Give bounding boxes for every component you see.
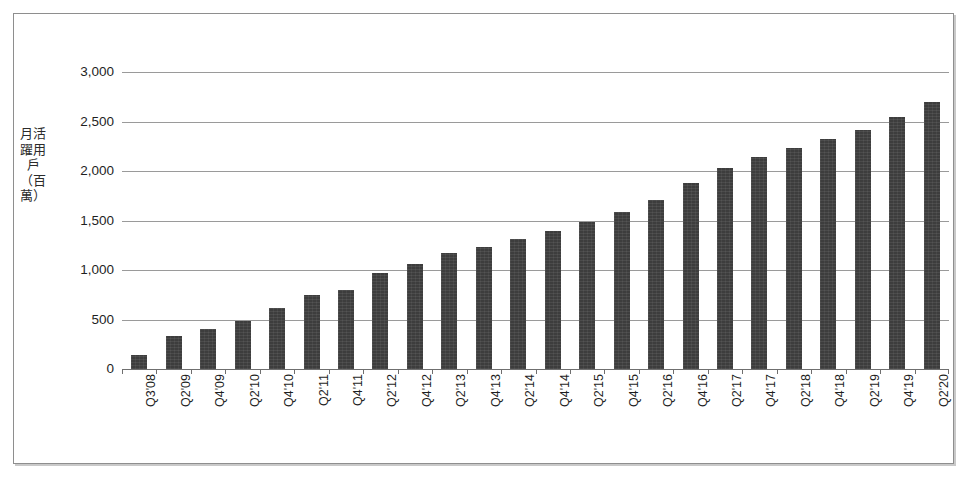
x-axis-tick-label: Q2'14 xyxy=(523,374,537,444)
y-axis-tick-label: 1,000 xyxy=(44,262,114,277)
x-axis-tick-label: Q2'17 xyxy=(730,374,744,444)
x-axis-tick-label: Q4'09 xyxy=(213,374,227,444)
bar xyxy=(407,264,423,369)
x-axis-tick-label: Q2'09 xyxy=(179,374,193,444)
bar xyxy=(855,130,871,369)
x-axis-tick-label: Q4'11 xyxy=(351,374,365,444)
x-axis-tick-label: Q4'14 xyxy=(558,374,572,444)
x-axis-tick-label: Q4'16 xyxy=(696,374,710,444)
x-axis-tick-label: Q2'11 xyxy=(317,374,331,444)
bar xyxy=(338,290,354,369)
chart-figure-frame: 月活躍用戶（百萬） 05001,0001,5002,0002,5003,000 … xyxy=(13,13,954,464)
bar xyxy=(924,102,940,369)
x-axis-tick-label: Q2'12 xyxy=(385,374,399,444)
y-axis-tick-labels: 05001,0001,5002,0002,5003,000 xyxy=(42,72,114,369)
bar xyxy=(786,148,802,369)
bar xyxy=(579,222,595,370)
bar xyxy=(889,117,905,369)
x-axis-tick-labels: Q3'08Q2'09Q4'09Q2'10Q4'10Q2'11Q4'11Q2'12… xyxy=(122,374,949,444)
bar xyxy=(648,200,664,369)
y-axis-tick-label: 2,500 xyxy=(44,114,114,129)
bar xyxy=(166,336,182,369)
x-axis-tick-label: Q2'20 xyxy=(937,374,951,444)
bar xyxy=(683,183,699,369)
x-axis-tick-label: Q4'15 xyxy=(627,374,641,444)
plot-area xyxy=(122,72,949,369)
x-axis-tick-label: Q4'10 xyxy=(282,374,296,444)
x-axis-tick-label: Q3'08 xyxy=(144,374,158,444)
x-axis-tick-label: Q4'19 xyxy=(902,374,916,444)
x-axis-tick-label: Q2'10 xyxy=(248,374,262,444)
bar xyxy=(269,308,285,369)
x-axis-tick-label: Q4'17 xyxy=(764,374,778,444)
x-axis-tick-label: Q2'13 xyxy=(454,374,468,444)
y-axis-tick-label: 0 xyxy=(44,361,114,376)
y-axis-tick-label: 3,000 xyxy=(44,64,114,79)
x-axis-tick-label: Q2'16 xyxy=(661,374,675,444)
bar xyxy=(441,253,457,369)
bar xyxy=(751,157,767,369)
bar xyxy=(372,273,388,369)
x-axis-tick-label: Q4'18 xyxy=(833,374,847,444)
bar xyxy=(820,139,836,369)
y-axis-tick-label: 2,000 xyxy=(44,163,114,178)
x-axis-tick-label: Q2'15 xyxy=(592,374,606,444)
x-axis-tick-label: Q2'19 xyxy=(868,374,882,444)
bar xyxy=(200,329,216,369)
bar xyxy=(235,321,251,369)
bar xyxy=(131,355,147,369)
x-axis-tick-label: Q4'13 xyxy=(489,374,503,444)
bar xyxy=(614,212,630,369)
bar xyxy=(304,295,320,369)
x-axis-tick-label: Q2'18 xyxy=(799,374,813,444)
bars-series xyxy=(122,72,949,369)
y-axis-tick-label: 500 xyxy=(44,312,114,327)
bar xyxy=(476,247,492,369)
bar xyxy=(545,231,561,369)
bar xyxy=(510,239,526,369)
bar xyxy=(717,168,733,369)
x-axis-tick-label: Q4'12 xyxy=(420,374,434,444)
y-axis-tick-label: 1,500 xyxy=(44,213,114,228)
